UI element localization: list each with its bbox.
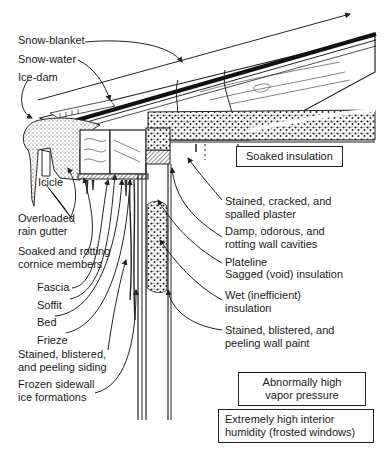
- label-wall-cavities: Damp, odorous, and rotting wall cavities: [225, 225, 325, 251]
- label-snow-blanket: Snow-blanket: [18, 34, 85, 47]
- label-frieze: Frieze: [37, 334, 68, 347]
- box-interior-humidity: Extremely high interior humidity (froste…: [218, 409, 374, 443]
- label-sagged-insulation: Sagged (void) insulation: [225, 268, 343, 281]
- label-soffit: Soffit: [37, 299, 62, 312]
- box-vapor-pressure: Abnormally high vapor pressure: [238, 372, 366, 406]
- label-snow-water: Snow-water: [18, 53, 76, 66]
- label-plaster: Stained, cracked, and spalled plaster: [225, 195, 331, 221]
- diagram-canvas: Snow-blanket Snow-water Ice-dam Icicle O…: [0, 0, 387, 450]
- label-fascia: Fascia: [37, 281, 69, 294]
- label-wall-paint: Stained, blistered, and peeling wall pai…: [225, 324, 334, 350]
- box-soaked-insulation: Soaked insulation: [236, 146, 343, 167]
- label-bed: Bed: [37, 316, 57, 329]
- label-ice-dam: Ice-dam: [18, 71, 58, 84]
- label-siding: Stained, blistered, and peeling siding: [18, 348, 107, 374]
- label-cornice-members: Soaked and rotting cornice members: [18, 245, 110, 271]
- label-wet-insulation: Wet (inefficient) insulation: [225, 289, 301, 315]
- label-sidewall-ice: Frozen sidewall ice formations: [18, 378, 94, 404]
- label-icicle: Icicle: [38, 176, 63, 189]
- label-overloaded-gutter: Overloaded rain gutter: [18, 212, 75, 238]
